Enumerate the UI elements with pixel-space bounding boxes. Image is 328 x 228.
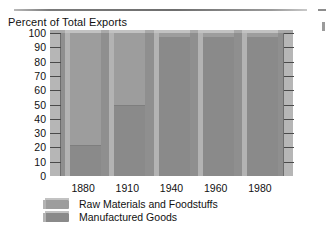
- x-axis-tick-label: 1960: [204, 182, 227, 194]
- plot-area: [50, 33, 293, 176]
- bar-top-face: [198, 30, 234, 33]
- y-axis-tick-mark: [50, 119, 61, 120]
- y-axis-tick-mark: [284, 147, 294, 148]
- page-edge-mark: [318, 9, 326, 11]
- bar-left-bevel: [198, 33, 203, 176]
- y-axis-tick-label: 10: [34, 156, 46, 167]
- bar-1880: [65, 33, 101, 176]
- legend-swatch-side-face: [43, 213, 46, 222]
- y-axis-tick-mark: [50, 162, 61, 163]
- y-axis-tick-mark: [50, 147, 61, 148]
- bar-1980: [242, 33, 278, 176]
- y-axis-tick-mark: [50, 76, 61, 77]
- chart-title: Percent of Total Exports: [8, 16, 127, 28]
- y-axis-tick-strip-right: [283, 33, 293, 176]
- bar-top-face: [65, 30, 101, 33]
- legend-label: Manufactured Goods: [79, 211, 177, 224]
- y-axis-tick-mark: [284, 90, 294, 91]
- bar-segment-manufactured-goods: [242, 37, 278, 176]
- bar-segment-manufactured-goods: [198, 37, 234, 176]
- chart-plot-wrapper: 1009080706050403020100: [0, 30, 328, 182]
- legend-item: Raw Materials and Foodstuffs: [43, 198, 323, 211]
- x-axis-tick-label: 1910: [116, 182, 139, 194]
- bar-left-bevel: [154, 33, 159, 176]
- y-axis-tick-label: 80: [34, 56, 46, 67]
- legend-swatch: [43, 213, 69, 222]
- y-axis-tick-mark: [284, 105, 294, 106]
- y-axis: 1009080706050403020100: [6, 30, 46, 177]
- bar-left-bevel: [109, 33, 114, 176]
- bar-segment-manufactured-goods: [109, 106, 145, 176]
- y-axis-tick-mark: [284, 62, 294, 63]
- bar-top-face: [154, 30, 190, 33]
- bar-segment-divider: [109, 105, 145, 106]
- page-rule-top: [14, 9, 307, 11]
- x-axis: 18801910194019601980: [50, 182, 293, 198]
- x-axis-tick-label: 1980: [248, 182, 271, 194]
- y-axis-tick-label: 60: [34, 85, 46, 96]
- bar-segment-raw-materials: [154, 33, 190, 37]
- y-axis-tick-label: 40: [34, 114, 46, 125]
- y-axis-tick-label: 70: [34, 71, 46, 82]
- bar-segment-raw-materials: [242, 33, 278, 37]
- bar-segment-raw-materials: [65, 33, 101, 146]
- bar-1910: [109, 33, 145, 176]
- bar-1960: [198, 33, 234, 176]
- y-axis-tick-label: 20: [34, 142, 46, 153]
- y-axis-tick-label: 50: [34, 99, 46, 110]
- y-axis-tick-mark: [50, 90, 61, 91]
- legend-swatch-side-face: [43, 200, 46, 209]
- y-axis-tick-mark: [50, 47, 61, 48]
- legend-swatch-top-face: [45, 198, 69, 200]
- y-axis-tick-mark: [284, 133, 294, 134]
- bar-segment-divider: [65, 145, 101, 146]
- y-axis-tick-mark: [50, 62, 61, 63]
- bar-segment-manufactured-goods: [154, 37, 190, 176]
- y-axis-tick-label: 30: [34, 128, 46, 139]
- chart-legend: Raw Materials and FoodstuffsManufactured…: [43, 198, 323, 224]
- bar-segment-raw-materials: [198, 33, 234, 37]
- x-axis-tick-label: 1880: [71, 182, 94, 194]
- y-axis-tick-mark: [284, 119, 294, 120]
- bar-left-bevel: [242, 33, 247, 176]
- legend-swatch-top-face: [45, 211, 69, 213]
- y-axis-tick-label: 100: [28, 28, 46, 39]
- bar-segment-manufactured-goods: [65, 146, 101, 176]
- y-axis-tick-mark: [284, 76, 294, 77]
- legend-item: Manufactured Goods: [43, 211, 323, 224]
- y-axis-tick-label: 90: [34, 42, 46, 53]
- y-axis-tick-mark: [50, 105, 61, 106]
- y-axis-tick-mark: [284, 33, 294, 34]
- bar-left-bevel: [65, 33, 70, 176]
- y-axis-tick-mark: [284, 47, 294, 48]
- bar-1940: [154, 33, 190, 176]
- y-axis-tick-strip-left: [50, 33, 61, 176]
- bar-segment-raw-materials: [109, 33, 145, 106]
- y-axis-tick-mark: [50, 33, 61, 34]
- legend-swatch: [43, 200, 69, 209]
- y-axis-tick-mark: [50, 133, 61, 134]
- y-axis-tick-label: 0: [40, 171, 46, 182]
- legend-label: Raw Materials and Foodstuffs: [79, 198, 218, 211]
- bar-top-face: [242, 30, 278, 33]
- x-axis-tick-label: 1940: [160, 182, 183, 194]
- bar-top-face: [109, 30, 145, 33]
- y-axis-tick-mark: [284, 162, 294, 163]
